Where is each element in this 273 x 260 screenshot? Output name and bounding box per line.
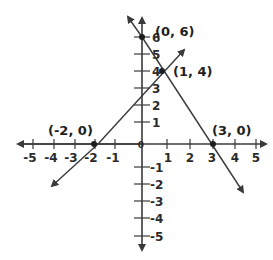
point-label-minus2-0: (-2, 0) — [48, 123, 93, 138]
point-1-4 — [159, 68, 165, 74]
x-tick-label: 2 — [186, 151, 194, 165]
point-minus2-0 — [91, 141, 97, 147]
x-tick-label: 5 — [252, 151, 260, 165]
x-tick-label: -4 — [44, 151, 57, 165]
point-label-1-4: (1, 4) — [173, 64, 212, 79]
origin-label: 0 — [138, 140, 144, 150]
x-tick-label: -5 — [23, 151, 36, 165]
line-through-0-6-and-3-0 — [128, 17, 142, 37]
point-3-0 — [210, 141, 216, 147]
point-0-6 — [139, 34, 145, 40]
y-tick-label: 2 — [152, 99, 160, 113]
y-tick-label: -2 — [150, 178, 163, 192]
x-tick-label: -3 — [64, 151, 77, 165]
y-tick-label: 1 — [152, 116, 160, 130]
coordinate-plane: -5 -4 -3 -2 -1 1 2 3 4 5 0 6 5 4 3 2 1 -… — [0, 0, 273, 260]
point-label-0-6: (0, 6) — [155, 24, 194, 39]
x-tick-label: 1 — [164, 151, 172, 165]
line-through-minus2-0-and-1-4 — [98, 50, 184, 144]
y-tick-label: -3 — [150, 195, 163, 209]
y-tick-label: -4 — [150, 212, 163, 226]
x-tick-label: -1 — [106, 151, 119, 165]
x-tick-label: 3 — [208, 151, 216, 165]
y-tick-label: -1 — [150, 161, 163, 175]
x-tick-label: -2 — [84, 151, 97, 165]
y-tick-labels: 6 5 4 3 2 1 -1 -2 -3 -4 -5 — [150, 31, 163, 244]
x-tick-label: 4 — [231, 151, 239, 165]
y-tick-label: -5 — [150, 230, 163, 244]
point-label-3-0: (3, 0) — [212, 123, 251, 138]
